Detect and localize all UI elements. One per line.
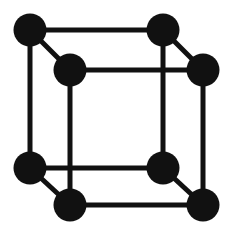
lattice-atom-back-top-right <box>147 14 180 47</box>
lattice-atom-back-top-left <box>14 14 47 47</box>
lattice-atom-front-bottom-left <box>54 189 87 222</box>
lattice-diagram-canvas <box>0 0 235 237</box>
lattice-atom-back-bottom-left <box>14 152 47 185</box>
lattice-atom-front-bottom-right <box>187 189 220 222</box>
lattice-atom-front-top-left <box>54 54 87 87</box>
lattice-atom-back-bottom-right <box>147 152 180 185</box>
lattice-diagram-figure <box>0 0 235 237</box>
lattice-atom-front-top-right <box>187 54 220 87</box>
